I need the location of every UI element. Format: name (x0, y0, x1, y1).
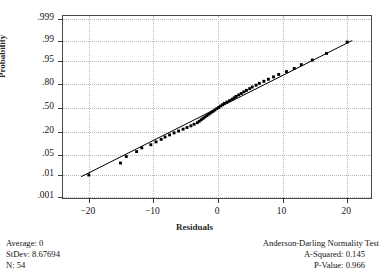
data-point (242, 90, 245, 93)
y-tick-label-.99: .99 (42, 35, 54, 45)
data-point (235, 95, 238, 98)
y-tick-label-.20: .20 (42, 126, 54, 136)
data-point (155, 140, 158, 143)
data-point (346, 41, 349, 44)
data-point (193, 123, 196, 126)
data-point (168, 133, 171, 136)
data-point (164, 136, 167, 139)
data-point (226, 101, 229, 104)
ad-test-title: Anderson-Darling Normality Test (263, 238, 379, 249)
data-layer (63, 16, 373, 200)
data-point (125, 155, 128, 158)
y-tick-label-.50: .50 (42, 102, 54, 112)
data-point (285, 70, 288, 73)
x-tick-label-10: 10 (262, 207, 302, 217)
plot-area (62, 15, 372, 199)
y-tick-label-.95: .95 (42, 55, 54, 65)
data-point (251, 86, 254, 89)
x-tick-label-20: 20 (326, 207, 366, 217)
data-point (189, 124, 192, 127)
data-point (160, 138, 163, 141)
y-tick-label-.999: .999 (37, 13, 54, 23)
anderson-darling-results: Anderson-Darling Normality Test A-Square… (263, 238, 379, 272)
data-point (173, 131, 176, 134)
data-points (87, 41, 348, 177)
y-axis-title: Probability (0, 35, 7, 78)
data-point (325, 52, 328, 55)
data-point (135, 150, 138, 153)
data-point (87, 174, 90, 177)
data-point (140, 146, 143, 149)
data-point (272, 75, 275, 78)
average-value: Average: 0 (6, 238, 43, 248)
stdev-value: StDev: 8.67694 (6, 249, 60, 259)
data-point (186, 126, 189, 129)
data-point (245, 89, 248, 92)
data-point (177, 130, 180, 133)
data-point (293, 67, 296, 70)
data-point (223, 102, 226, 105)
x-axis-title: Residuals (0, 222, 389, 232)
summary-statistics: Average: 0 StDev: 8.67694 N: 54 (6, 238, 60, 272)
data-point (237, 93, 240, 96)
n-value: N: 54 (6, 260, 25, 270)
data-point (248, 87, 251, 90)
data-point (240, 92, 243, 95)
y-tick-label-.80: .80 (42, 78, 54, 88)
data-point (255, 84, 258, 87)
p-value: P-Value: 0.966 (263, 260, 379, 271)
y-tick-label-.05: .05 (42, 149, 54, 159)
x-tick-label--10: −10 (132, 207, 172, 217)
data-point (267, 78, 270, 81)
data-point (149, 143, 152, 146)
data-point (258, 82, 261, 85)
data-point (300, 63, 303, 66)
y-tick-label-.001: .001 (37, 191, 54, 201)
probability-plot-figure: Probability .999.99.95.80.50.20.05.01.00… (0, 0, 389, 276)
x-tick-label--20: −20 (68, 207, 108, 217)
data-point (119, 162, 122, 165)
data-point (182, 128, 185, 131)
data-point (277, 73, 280, 76)
data-point (228, 99, 231, 102)
data-point (262, 80, 265, 83)
y-tick-label-.01: .01 (42, 169, 54, 179)
a-squared-value: A-Squared: 0.145 (263, 249, 379, 260)
data-point (311, 59, 314, 62)
x-tick-label-0: 0 (197, 207, 237, 217)
